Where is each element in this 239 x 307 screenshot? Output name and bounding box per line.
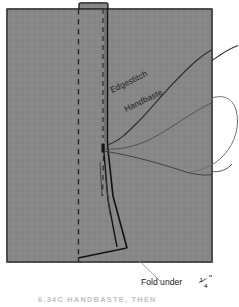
sewing-diagram-figure: Edgestitch Handbaste Fold under 1 4 " 6.… bbox=[0, 0, 239, 307]
fabric-shading bbox=[7, 9, 212, 262]
figure-caption: 6.34C HANDBASTE, THEN bbox=[38, 295, 157, 304]
callout-unit-mark: " bbox=[209, 273, 212, 283]
callout-fold-under-text: Fold under bbox=[141, 277, 182, 287]
fabric-contents bbox=[7, 9, 239, 262]
diagram-canvas: Edgestitch Handbaste Fold under 1 4 " 6.… bbox=[0, 0, 239, 307]
callout-fraction-denominator: 4 bbox=[204, 282, 208, 289]
